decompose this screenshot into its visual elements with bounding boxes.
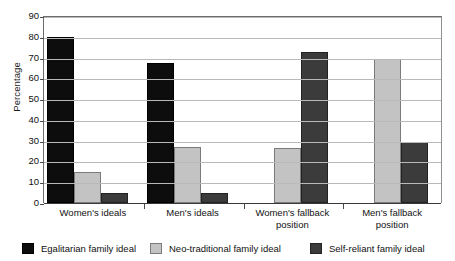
legend-label: Self-reliant family ideal — [329, 243, 425, 254]
bar-chart: Percentage 0102030405060708090 Women's i… — [0, 0, 455, 261]
axis-baseline — [44, 203, 441, 204]
gridline — [44, 121, 441, 122]
y-axis-tick — [40, 59, 44, 60]
y-axis-tick — [40, 100, 44, 101]
x-axis-label-line: Women's ideals — [43, 207, 143, 219]
gridline — [44, 59, 441, 60]
legend-item: Self-reliant family ideal — [310, 241, 425, 255]
bars-container — [44, 17, 441, 203]
x-axis-label-line: position — [243, 219, 343, 231]
x-axis-label: Men's fallbackposition — [342, 207, 442, 230]
y-axis-tick — [40, 17, 44, 18]
y-axis-tick — [40, 204, 44, 205]
y-axis-tick-label: 0 — [9, 198, 39, 208]
x-axis-label: Women's fallbackposition — [243, 207, 343, 230]
gridline — [44, 38, 441, 39]
y-axis-tick — [40, 121, 44, 122]
bar — [401, 142, 428, 203]
plot-area — [43, 16, 442, 203]
y-axis-tick — [40, 142, 44, 143]
gridline — [44, 142, 441, 143]
y-axis-tick-label: 40 — [9, 115, 39, 125]
x-axis-label-line: Women's fallback — [243, 207, 343, 219]
x-axis-label-line: Men's ideals — [143, 207, 243, 219]
x-axis-label: Women's ideals — [43, 207, 143, 219]
y-axis-tick — [40, 162, 44, 163]
y-axis-tick-label: 90 — [9, 11, 39, 21]
legend-item: Egalitarian family ideal — [22, 241, 136, 255]
gridline — [44, 183, 441, 184]
y-axis-tick-labels: 0102030405060708090 — [5, 16, 39, 203]
y-axis-tick-label: 70 — [9, 53, 39, 63]
gridline — [44, 162, 441, 163]
bar — [301, 52, 328, 203]
black-swatch — [22, 243, 34, 254]
dark-gray-swatch — [310, 243, 322, 254]
bar — [101, 193, 128, 203]
gridline — [44, 100, 441, 101]
gridline — [44, 17, 441, 18]
x-axis-label-line: Men's fallback — [342, 207, 442, 219]
x-axis-label-line: position — [342, 219, 442, 231]
chart-legend: Egalitarian family idealNeo-traditional … — [0, 241, 455, 259]
legend-item: Neo-traditional family ideal — [150, 241, 281, 255]
legend-label: Egalitarian family ideal — [41, 243, 136, 254]
bar — [74, 172, 101, 203]
bar — [174, 147, 201, 203]
y-axis-tick — [40, 183, 44, 184]
bar — [201, 193, 228, 203]
y-axis-tick-label: 60 — [9, 73, 39, 83]
x-axis-category-labels: Women's idealsMen's idealsWomen's fallba… — [43, 207, 442, 235]
y-axis-tick-label: 30 — [9, 136, 39, 146]
y-axis-tick-label: 10 — [9, 177, 39, 187]
y-axis-tick — [40, 79, 44, 80]
bar — [147, 63, 174, 203]
light-gray-swatch — [150, 243, 162, 254]
y-axis-tick-label: 80 — [9, 32, 39, 42]
y-axis-tick-label: 20 — [9, 156, 39, 166]
y-axis-tick-label: 50 — [9, 94, 39, 104]
bar — [274, 148, 301, 203]
y-axis-tick — [40, 38, 44, 39]
legend-label: Neo-traditional family ideal — [169, 243, 281, 254]
gridline — [44, 79, 441, 80]
x-axis-label: Men's ideals — [143, 207, 243, 219]
